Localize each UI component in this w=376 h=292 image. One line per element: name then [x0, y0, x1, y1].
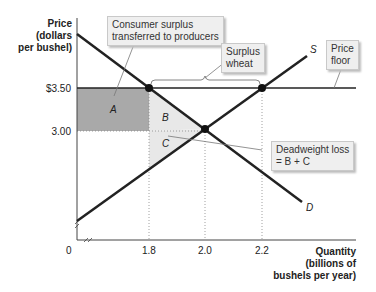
- y-tick-350: $3.50: [46, 83, 71, 95]
- y-axis-label: Price (dollars per bushel): [18, 18, 72, 54]
- x-tick-0: 0: [66, 245, 72, 257]
- region-b-label: B: [162, 112, 169, 124]
- consumer-surplus-callout: Consumer surplus transferred to producer…: [107, 16, 224, 46]
- x-axis-label: Quantity (billions of bushels per year): [273, 246, 356, 282]
- qd-point: [145, 84, 153, 92]
- surplus-wheat-callout: Surplus wheat: [221, 43, 265, 73]
- x-tick-1-8: 1.8: [142, 245, 156, 257]
- region-a-label: A: [110, 104, 117, 116]
- region-c-label: C: [162, 138, 169, 150]
- supply-curve: [77, 56, 307, 221]
- x-tick-2-0: 2.0: [198, 245, 212, 257]
- equilibrium-point: [201, 125, 209, 133]
- price-floor-callout: Price floor: [326, 40, 359, 70]
- y-tick-300: 3.00: [52, 126, 71, 138]
- qs-point: [258, 84, 266, 92]
- demand-label: D: [306, 202, 313, 214]
- deadweight-loss-callout: Deadweight loss = B + C: [271, 141, 354, 171]
- x-tick-2-2: 2.2: [255, 245, 269, 257]
- supply-label: S: [310, 44, 317, 56]
